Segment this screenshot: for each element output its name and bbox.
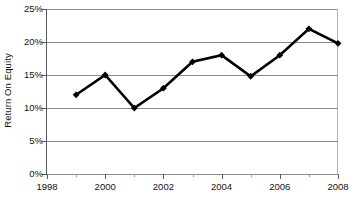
x-axis-tick-mark	[47, 174, 48, 179]
x-axis-tick-mark	[338, 174, 339, 179]
data-series-line	[0, 0, 354, 204]
x-axis-minor-tick-mark	[134, 174, 135, 177]
y-axis-tick-mark	[41, 75, 47, 76]
x-axis-minor-tick-mark	[251, 174, 252, 177]
x-axis-minor-tick-mark	[76, 174, 77, 177]
series-polyline	[76, 29, 338, 108]
x-axis-tick-mark	[105, 174, 106, 179]
chart-container: Return On Equity 0%5%10%15%20%25% 199820…	[0, 0, 354, 204]
x-axis-minor-tick-mark	[193, 174, 194, 177]
series-markers	[73, 25, 342, 111]
x-axis-minor-tick-mark	[309, 174, 310, 177]
x-axis-tick-mark	[280, 174, 281, 179]
x-axis-tick-mark	[222, 174, 223, 179]
y-axis-tick-mark	[41, 9, 47, 10]
y-axis-tick-mark	[41, 108, 47, 109]
y-axis-tick-mark	[41, 42, 47, 43]
x-axis-tick-mark	[163, 174, 164, 179]
y-axis-tick-mark	[41, 141, 47, 142]
